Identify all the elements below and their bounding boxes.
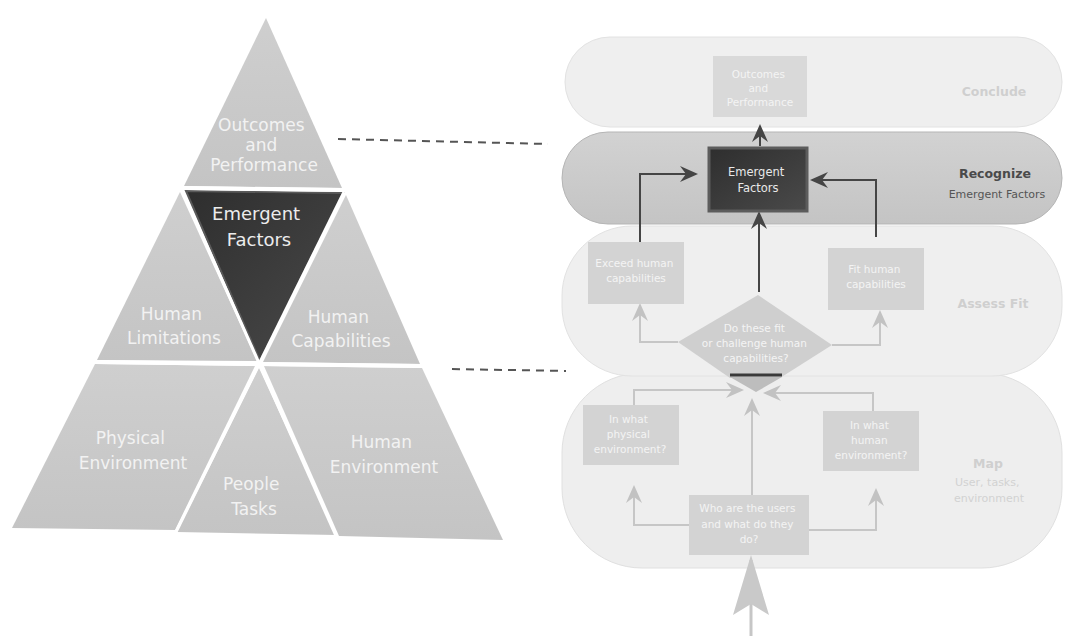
lane-sublabel-recognize: Emergent Factors	[949, 188, 1046, 201]
lane-label-map: Map	[973, 456, 1003, 471]
lane-conclude	[565, 37, 1062, 127]
lane-label-assess-fit: Assess Fit	[957, 296, 1028, 311]
dashed-connector-bottom	[452, 369, 566, 371]
flow-diagram: Conclude Recognize Emergent Factors Asse…	[562, 37, 1062, 636]
lane-label-recognize: Recognize	[959, 166, 1031, 181]
lane-label-conclude: Conclude	[962, 84, 1027, 99]
node-emergent-box	[709, 148, 807, 211]
pyramid: Outcomes and Performance Emergent Factor…	[12, 18, 503, 540]
dashed-connector-top	[338, 139, 548, 144]
diagram-canvas: Outcomes and Performance Emergent Factor…	[0, 0, 1074, 636]
